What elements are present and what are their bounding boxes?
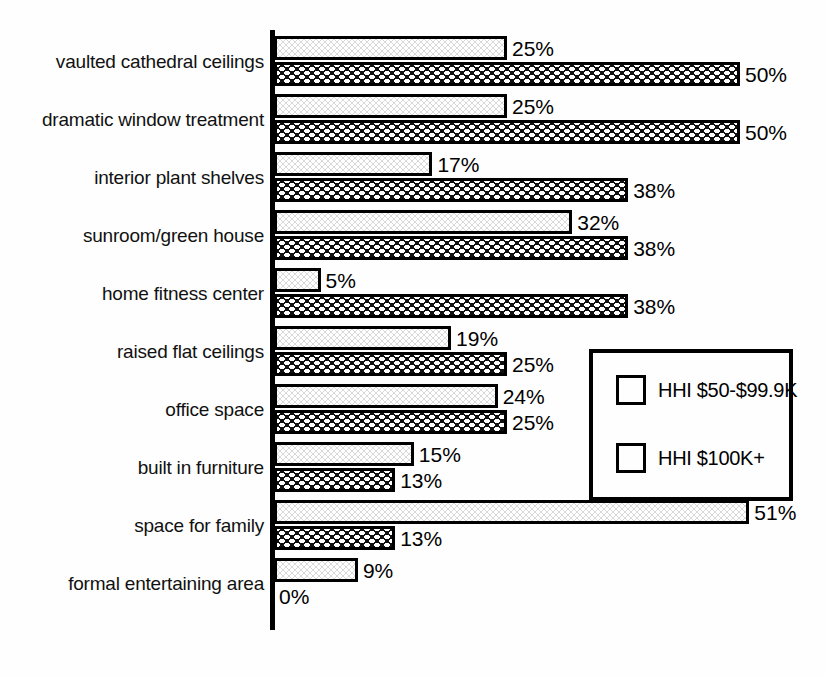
bar bbox=[274, 326, 451, 350]
chart-category-row: interior plant shelves17%38% bbox=[0, 149, 825, 207]
bar bbox=[274, 352, 507, 376]
bar bbox=[274, 558, 358, 582]
bar-value-label: 38% bbox=[628, 236, 675, 260]
bar-value-label: 25% bbox=[507, 410, 554, 434]
category-label: sunroom/green house bbox=[0, 221, 264, 251]
chart-category-row: home fitness center5%38% bbox=[0, 265, 825, 323]
chart-category-row: space for family51%13% bbox=[0, 497, 825, 555]
category-label: office space bbox=[0, 395, 264, 425]
bar bbox=[274, 62, 740, 86]
category-label: formal entertaining area bbox=[0, 569, 264, 599]
bar-value-label: 19% bbox=[451, 326, 498, 350]
category-label: vaulted cathedral ceilings bbox=[0, 47, 264, 77]
bar-value-label: 24% bbox=[498, 384, 545, 408]
chart-category-row: dramatic window treatment25%50% bbox=[0, 91, 825, 149]
category-label: built in furniture bbox=[0, 453, 264, 483]
bar-value-label: 38% bbox=[628, 178, 675, 202]
bar-value-label: 50% bbox=[740, 120, 787, 144]
bar bbox=[274, 468, 395, 492]
category-label: dramatic window treatment bbox=[0, 105, 264, 135]
bar bbox=[274, 236, 628, 260]
bar-chart: vaulted cathedral ceilings25%50%dramatic… bbox=[0, 0, 825, 678]
bar bbox=[274, 442, 414, 466]
category-label: raised flat ceilings bbox=[0, 337, 264, 367]
bar-value-label: 25% bbox=[507, 94, 554, 118]
bar-value-label: 51% bbox=[749, 500, 796, 524]
category-label: interior plant shelves bbox=[0, 163, 264, 193]
bar-value-label: 13% bbox=[395, 468, 442, 492]
bar-value-label: 32% bbox=[572, 210, 619, 234]
legend-label-hhi-100k: HHI $100K+ bbox=[658, 443, 765, 473]
chart-category-row: sunroom/green house32%38% bbox=[0, 207, 825, 265]
bar-value-label: 38% bbox=[628, 294, 675, 318]
bar bbox=[274, 36, 507, 60]
bar-value-label: 9% bbox=[358, 558, 393, 582]
bar bbox=[274, 94, 507, 118]
bar-value-label: 50% bbox=[740, 62, 787, 86]
bar bbox=[274, 178, 628, 202]
bar-value-label: 5% bbox=[321, 268, 356, 292]
bar-value-label: 25% bbox=[507, 352, 554, 376]
bar bbox=[274, 210, 572, 234]
bar-value-label: 0% bbox=[274, 584, 309, 608]
legend-swatch-light-dotted-icon bbox=[616, 375, 646, 405]
plot-area: vaulted cathedral ceilings25%50%dramatic… bbox=[0, 0, 825, 678]
bar bbox=[274, 120, 740, 144]
bar bbox=[274, 410, 507, 434]
category-label: home fitness center bbox=[0, 279, 264, 309]
bar bbox=[274, 500, 749, 524]
legend-label-hhi-50-99: HHI $50-$99.9K bbox=[658, 375, 797, 405]
bar-value-label: 17% bbox=[432, 152, 479, 176]
category-label: space for family bbox=[0, 511, 264, 541]
bar-value-label: 13% bbox=[395, 526, 442, 550]
bar-value-label: 25% bbox=[507, 36, 554, 60]
bar bbox=[274, 526, 395, 550]
bar bbox=[274, 152, 432, 176]
legend-swatch-dark-checkered-icon bbox=[616, 443, 646, 473]
chart-legend: HHI $50-$99.9K HHI $100K+ bbox=[589, 349, 793, 501]
chart-category-row: formal entertaining area9%0% bbox=[0, 555, 825, 613]
bar bbox=[274, 268, 321, 292]
bar bbox=[274, 384, 498, 408]
bar-value-label: 15% bbox=[414, 442, 461, 466]
bar bbox=[274, 294, 628, 318]
chart-category-row: vaulted cathedral ceilings25%50% bbox=[0, 33, 825, 91]
